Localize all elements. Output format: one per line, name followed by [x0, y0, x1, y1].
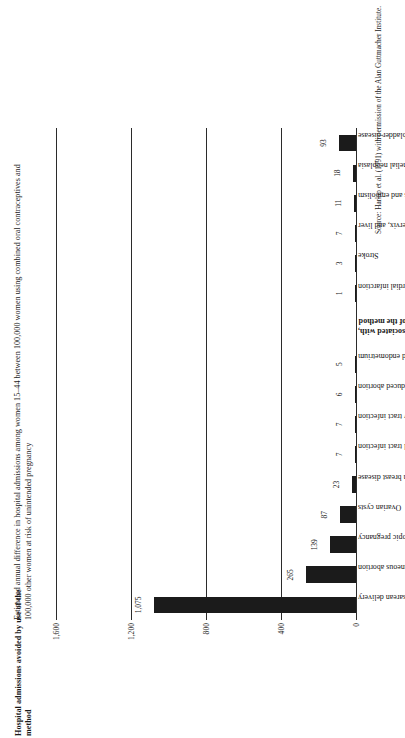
y-tick-label: 800	[202, 623, 211, 634]
bar[interactable]	[339, 135, 356, 152]
source-note: Source: Harlap et al. (1991) with permis…	[374, 4, 383, 736]
bar-value-label: 1	[335, 292, 344, 296]
bar-value-label: 7	[335, 423, 344, 427]
bar-value-label: 11	[334, 200, 343, 207]
bar-slot: 1,075	[56, 597, 356, 614]
bar-slot: 7	[56, 446, 356, 463]
bar[interactable]	[352, 476, 356, 493]
bar[interactable]	[355, 356, 356, 373]
bar-slot: 265	[56, 566, 356, 583]
figure: Hospital admissions avoided by use of th…	[0, 0, 405, 738]
bar-slot: 6	[56, 386, 356, 403]
bar[interactable]	[353, 165, 356, 182]
y-tick-label: 1,200	[127, 623, 136, 640]
bar-value-label: 265	[286, 569, 295, 580]
bar[interactable]	[355, 225, 356, 242]
bar[interactable]	[330, 536, 356, 553]
bar-value-label: 18	[333, 169, 342, 176]
bar-value-label: 3	[335, 262, 344, 266]
bar-slot: 87	[56, 506, 356, 523]
bar-value-label: 7	[335, 453, 344, 457]
bar[interactable]	[355, 446, 356, 463]
axis-baseline	[356, 128, 357, 620]
bar-slot: 23	[56, 476, 356, 493]
bar[interactable]	[355, 255, 356, 272]
plot-area: 04008001,2001,600 1,07526513987237765137…	[56, 128, 356, 620]
bar-value-label: 87	[320, 511, 329, 518]
bar-value-label: 7	[335, 231, 344, 235]
bar[interactable]	[306, 566, 356, 583]
bar-value-label: 6	[335, 392, 344, 396]
bar[interactable]	[154, 597, 356, 614]
bar-slot: 7	[56, 225, 356, 242]
bar-value-label: 5	[335, 362, 344, 366]
y-tick-label: 1,600	[52, 623, 61, 640]
bar-slot: 1	[56, 285, 356, 302]
bar[interactable]	[355, 285, 356, 302]
bar-value-label: 139	[310, 539, 319, 550]
bar-series: 1,07526513987237765137111893	[56, 128, 356, 620]
bar[interactable]	[355, 416, 356, 433]
bar-slot: 5	[56, 356, 356, 373]
bar[interactable]	[354, 195, 356, 212]
bar-slot: 139	[56, 536, 356, 553]
bar[interactable]	[355, 386, 356, 403]
y-tick-label: 0	[352, 623, 361, 627]
bar-value-label: 93	[319, 139, 328, 146]
bar-slot: 3	[56, 255, 356, 272]
chart-title: Estimated annual difference in hospital …	[12, 150, 35, 620]
bar-value-label: 23	[332, 481, 341, 488]
bar-slot: 7	[56, 416, 356, 433]
bar[interactable]	[340, 506, 356, 523]
bar-slot: 18	[56, 165, 356, 182]
bar-value-label: 1,075	[134, 597, 143, 614]
y-tick-label: 400	[277, 623, 286, 634]
bar-slot: 11	[56, 195, 356, 212]
rotated-figure-wrapper: Hospital admissions avoided by use of th…	[0, 0, 405, 738]
bar-slot: 93	[56, 135, 356, 152]
